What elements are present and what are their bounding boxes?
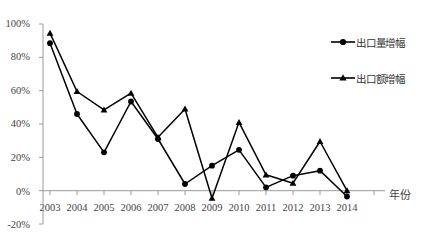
data-point [74,88,81,94]
data-point [263,171,270,177]
data-point [317,168,323,174]
chart-legend: 出口量增幅 出口额增幅 [330,30,422,90]
data-point [74,111,80,117]
data-point [263,184,269,190]
data-point [47,30,54,36]
x-axis-ticks [50,191,374,195]
legend-label-value: 出口额增幅 [356,71,405,86]
data-point [317,138,324,144]
data-point [182,106,189,112]
legend-label-volume: 出口量增幅 [356,35,405,50]
data-point [182,181,188,187]
data-point [101,149,107,155]
data-point [128,90,135,96]
data-point [290,173,296,179]
data-point [209,195,216,201]
series-line [50,43,347,196]
data-point [47,40,53,46]
triangle-marker-icon [330,71,356,85]
legend-item-volume[interactable]: 出口量增幅 [330,30,422,54]
line-chart: 100% 80% 60% 40% 20% 0% -20% 2003 2004 2… [0,0,423,243]
data-point [128,99,134,105]
data-point [344,194,350,200]
series-volume [47,40,350,199]
circle-marker-icon [330,35,356,49]
data-point [236,119,243,125]
series-layer [47,30,351,201]
data-point [236,147,242,153]
data-point [209,163,215,169]
legend-item-value[interactable]: 出口额增幅 [330,66,422,90]
